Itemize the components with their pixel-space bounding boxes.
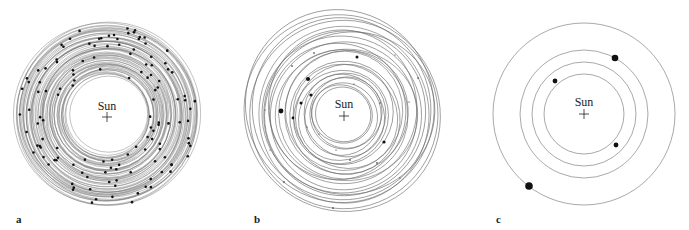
planetesimal [178, 121, 181, 124]
planetesimal [171, 71, 174, 74]
planetesimal [194, 100, 197, 103]
planetesimal [25, 131, 28, 134]
protoplanet [353, 83, 354, 84]
planetesimal [27, 81, 30, 84]
panel-label-a: a [16, 213, 22, 225]
planet [614, 143, 619, 148]
planetesimal [154, 160, 157, 163]
planetesimal [176, 98, 179, 101]
protoplanet [270, 150, 271, 151]
planetesimal [151, 138, 154, 141]
panel-c: Sun c [493, 23, 675, 225]
planetesimal [143, 36, 146, 39]
protoplanet [399, 177, 400, 178]
planetesimal [55, 58, 58, 61]
panel-label-c: c [496, 213, 501, 225]
planetesimal [145, 63, 148, 66]
planetesimal [111, 158, 114, 161]
planetesimal [150, 74, 153, 77]
planetesimal [149, 178, 152, 181]
planetesimal [26, 77, 29, 80]
orbit [226, 0, 457, 226]
figure-canvas: Sun a Sun b Sun c [0, 0, 689, 230]
protoplanet [395, 55, 396, 56]
planetesimal [158, 80, 161, 83]
planetesimal [110, 166, 113, 169]
planetesimal [71, 183, 74, 186]
planetesimal [99, 68, 102, 71]
protoplanet [356, 56, 359, 59]
planetesimal [137, 192, 140, 195]
protoplanet [376, 162, 378, 164]
sun-marker-icon [102, 112, 112, 122]
planetesimal [152, 129, 155, 132]
planetesimal [150, 126, 153, 129]
planetesimal [114, 184, 117, 187]
planetesimal [42, 156, 45, 159]
planetesimal [88, 42, 91, 45]
panel-b: Sun b [203, 0, 481, 230]
protoplanet [318, 133, 319, 134]
planetesimal [95, 198, 98, 201]
planetesimal [72, 69, 75, 72]
planetesimal [37, 91, 40, 94]
planetesimal [169, 170, 172, 173]
planetesimal [164, 62, 167, 65]
planetesimal [166, 49, 169, 52]
planetesimal [108, 181, 111, 184]
planetesimal [71, 84, 74, 87]
planetesimal [140, 71, 143, 74]
planetesimal [159, 142, 162, 145]
planetesimal [158, 121, 161, 124]
orbit [298, 69, 391, 162]
planetesimal [131, 201, 134, 204]
planetesimal [81, 171, 84, 174]
planetesimal [144, 185, 147, 188]
planetesimal [39, 146, 42, 149]
planetesimal [156, 86, 159, 89]
planetesimal [86, 176, 89, 179]
planetesimal [84, 158, 87, 161]
protoplanet [379, 102, 380, 103]
planetesimal [187, 137, 190, 140]
sun-label: Sun [575, 95, 594, 109]
planetesimal [39, 116, 42, 119]
sun-marker-icon [579, 109, 589, 119]
protoplanet [300, 102, 303, 105]
protoplanet [283, 181, 285, 183]
planetesimal [72, 188, 75, 191]
planetesimal [89, 188, 92, 191]
planet [525, 182, 533, 190]
planetesimal [135, 145, 138, 148]
protoplanet [349, 159, 351, 161]
planetesimal [36, 144, 39, 147]
protoplanet [265, 110, 266, 111]
planetesimal [154, 89, 157, 92]
planet [553, 79, 558, 84]
planetesimal [72, 163, 75, 166]
protoplanet [291, 65, 293, 67]
planetesimal [42, 119, 45, 122]
planetesimal [186, 155, 189, 158]
planetesimal [56, 61, 59, 64]
planetesimal [19, 113, 22, 116]
planetesimal [189, 145, 192, 148]
planetesimal [127, 32, 130, 35]
planetesimal [183, 95, 186, 98]
planetesimal [184, 99, 187, 102]
planetesimal [93, 56, 96, 59]
planetesimal [69, 37, 72, 40]
planetesimal [133, 48, 136, 51]
planetesimal [37, 69, 40, 72]
planetesimal [106, 45, 109, 48]
panel-a: Sun a [13, 22, 200, 225]
planetesimal [116, 38, 119, 41]
planetesimal [158, 148, 161, 151]
planetesimal [59, 87, 62, 90]
planetesimal [55, 159, 58, 162]
planetesimal [150, 186, 153, 189]
planetesimal [118, 164, 121, 167]
planetesimal [104, 171, 107, 174]
planetesimal [170, 164, 173, 167]
panel-c-bodies [525, 55, 618, 190]
